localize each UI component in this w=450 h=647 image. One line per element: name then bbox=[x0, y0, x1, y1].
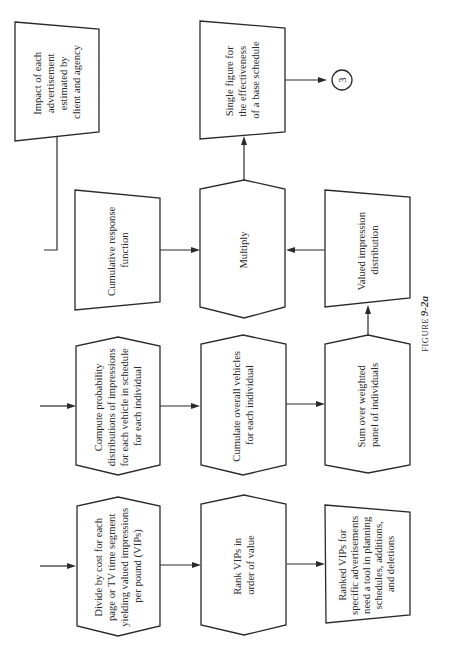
node-connector-3: 3 bbox=[332, 70, 352, 90]
arrowhead bbox=[286, 247, 295, 253]
node-impact: Impact of each advertisement estimated b… bbox=[15, 22, 99, 141]
arrowhead bbox=[318, 77, 327, 83]
node-multiply: Multiply bbox=[200, 180, 285, 318]
node-single-figure-label: Single figure for the effectiveness of a… bbox=[224, 41, 261, 119]
node-valued-impression: Valued impression distribution bbox=[325, 190, 410, 307]
node-cumulative-response: Cumulative response function bbox=[75, 190, 160, 310]
node-rank-vips: Rank VIPs in order of value bbox=[201, 495, 286, 635]
node-divide-cost: Divide by cost for each page or TV time … bbox=[77, 497, 160, 636]
svg-text:3: 3 bbox=[337, 77, 348, 82]
arrowhead bbox=[67, 403, 76, 409]
arrowhead bbox=[316, 561, 325, 567]
arrowhead bbox=[191, 403, 200, 409]
arrowhead bbox=[365, 305, 371, 314]
connector-impact-to-response bbox=[44, 137, 57, 250]
arrowhead bbox=[316, 401, 325, 407]
arrowhead bbox=[241, 136, 247, 145]
caption-number: 9-2a bbox=[418, 296, 430, 317]
node-sum-weighted: Sum over weighted panel of individuals bbox=[325, 335, 410, 473]
arrowhead bbox=[191, 247, 200, 253]
flowchart: Impact of each advertisement estimated b… bbox=[0, 0, 450, 647]
node-single-figure: Single figure for the effectiveness of a… bbox=[200, 21, 285, 139]
node-compute-probability: Compute probability distributions of imp… bbox=[76, 337, 160, 475]
arrowhead bbox=[67, 563, 76, 569]
node-ranked-vips: Ranked VIPs for specific advertisements … bbox=[325, 505, 410, 623]
arrowhead bbox=[192, 562, 201, 568]
figure-caption: FIGURE 9-2a bbox=[418, 296, 430, 352]
svg-text:Multiply: Multiply bbox=[238, 231, 249, 269]
node-cumulate-vehicles: Cumulate overall vehicles for each indiv… bbox=[201, 335, 286, 475]
caption-prefix: FIGURE bbox=[420, 318, 430, 352]
